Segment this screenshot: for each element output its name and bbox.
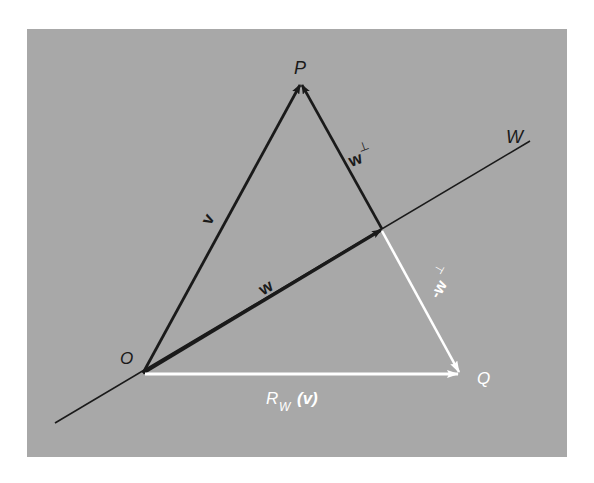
label-reflection-R: R [266,389,278,408]
label-W: W [506,127,525,147]
label-Q: Q [477,369,490,388]
label-P: P [294,58,306,78]
reflection-diagram: P O Q W v w w ⊥ -w ⊥ R W (v) [0,0,594,483]
label-reflection-subscript: W [279,400,292,414]
label-reflection-arg: (v) [297,389,318,408]
label-O: O [120,349,133,368]
